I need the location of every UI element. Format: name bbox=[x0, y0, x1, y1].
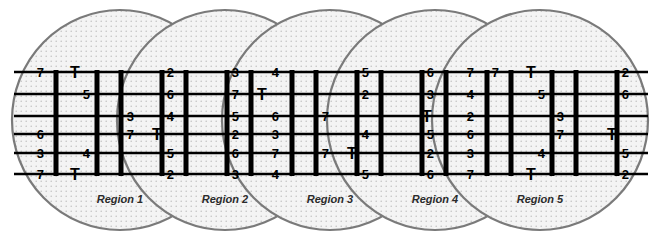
region-label-4: Region 4 bbox=[412, 193, 458, 205]
cell-label-num-25: 6 bbox=[232, 146, 239, 161]
cell-label-num-43: 6 bbox=[467, 127, 474, 142]
cell-label-num-17: 3 bbox=[232, 65, 239, 80]
cell-label-num-23: 2 bbox=[232, 127, 239, 142]
cell-label-num-16: 2 bbox=[167, 167, 174, 182]
cell-label-num-37: 7 bbox=[467, 65, 474, 80]
cell-label-num-33: 7 bbox=[322, 146, 329, 161]
cell-label-num-7: 7 bbox=[37, 167, 44, 182]
cell-label-T-57: T bbox=[607, 126, 617, 143]
cell-label-num-59: 2 bbox=[622, 167, 629, 182]
cell-label-num-31: 7 bbox=[322, 109, 329, 124]
cell-label-num-45: 3 bbox=[467, 146, 474, 161]
cell-label-num-15: 5 bbox=[167, 146, 174, 161]
cell-label-T-2: T bbox=[70, 64, 80, 81]
cell-label-num-47: 7 bbox=[467, 167, 474, 182]
cell-label-num-3: 5 bbox=[83, 87, 90, 102]
cell-label-num-26: 7 bbox=[272, 146, 279, 161]
ladder-region-diagram: 7T56347T26347T52347T5623673452747T56734T… bbox=[0, 0, 655, 244]
cell-label-num-52: 7 bbox=[557, 127, 564, 142]
cell-label-num-35: 5 bbox=[362, 167, 369, 182]
cell-label-num-50: 5 bbox=[538, 87, 545, 102]
cell-label-num-19: 7 bbox=[232, 87, 239, 102]
cell-label-num-51: 3 bbox=[557, 109, 564, 124]
cell-label-num-41: 2 bbox=[467, 109, 474, 124]
cell-label-num-1: 7 bbox=[37, 65, 44, 80]
region-label-5: Region 5 bbox=[517, 193, 564, 205]
cell-label-num-56: 6 bbox=[622, 87, 629, 102]
cell-label-num-39: 4 bbox=[467, 87, 475, 102]
region-label-2: Region 2 bbox=[202, 193, 248, 205]
cell-label-num-38: 3 bbox=[427, 87, 434, 102]
cell-label-num-30: 2 bbox=[362, 87, 369, 102]
cell-label-num-10: 6 bbox=[167, 87, 174, 102]
cell-label-num-29: 5 bbox=[362, 65, 369, 80]
cell-label-T-8: T bbox=[70, 166, 80, 183]
cell-label-T-14: T bbox=[152, 126, 162, 143]
cell-label-T-34: T bbox=[347, 145, 357, 162]
cell-label-T-40: T bbox=[422, 108, 432, 125]
cell-label-num-36: 6 bbox=[427, 65, 434, 80]
region-label-3: Region 3 bbox=[307, 193, 353, 205]
cell-label-num-48: 7 bbox=[492, 65, 499, 80]
cell-label-num-21: 5 bbox=[232, 109, 239, 124]
cell-label-num-6: 4 bbox=[83, 146, 91, 161]
cell-label-T-20: T bbox=[257, 86, 267, 103]
cell-label-num-28: 4 bbox=[272, 167, 280, 182]
cell-label-num-5: 3 bbox=[37, 146, 44, 161]
cell-label-num-27: 3 bbox=[232, 167, 239, 182]
cell-label-num-18: 4 bbox=[272, 65, 280, 80]
cell-label-num-24: 3 bbox=[272, 127, 279, 142]
cell-label-num-46: 6 bbox=[427, 167, 434, 182]
cell-label-num-32: 4 bbox=[362, 127, 370, 142]
cell-label-num-11: 3 bbox=[127, 109, 134, 124]
cell-label-num-44: 2 bbox=[427, 146, 434, 161]
cell-label-T-49: T bbox=[526, 64, 536, 81]
diagram-canvas: 7T56347T26347T52347T5623673452747T56734T… bbox=[0, 0, 655, 244]
cell-label-num-9: 2 bbox=[167, 65, 174, 80]
cell-label-num-22: 6 bbox=[272, 109, 279, 124]
cell-label-num-53: 4 bbox=[538, 146, 546, 161]
region-label-1: Region 1 bbox=[97, 193, 143, 205]
cell-label-num-4: 6 bbox=[37, 127, 44, 142]
cell-label-num-58: 5 bbox=[622, 146, 629, 161]
cell-label-num-12: 4 bbox=[167, 109, 175, 124]
cell-label-num-42: 5 bbox=[427, 127, 434, 142]
cell-label-num-55: 2 bbox=[622, 65, 629, 80]
cell-label-num-13: 7 bbox=[127, 127, 134, 142]
cell-label-T-54: T bbox=[526, 166, 536, 183]
